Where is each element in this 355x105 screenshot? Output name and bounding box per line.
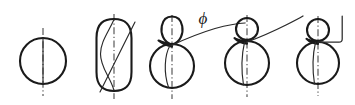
stage-3-chord [165, 46, 170, 88]
stage-1-group [20, 28, 66, 96]
stage-4-leader-line [247, 16, 304, 42]
stage-5-group [297, 16, 342, 96]
stage-2-s-curve [101, 20, 115, 91]
stage-2-group [97, 14, 136, 99]
stage-3-group: ϕ [150, 9, 245, 99]
phi-angle-label: ϕ [199, 9, 208, 28]
stage-4-group [225, 15, 303, 97]
technical-figure-container: ϕ [0, 0, 355, 105]
technical-line-drawing: ϕ [0, 0, 355, 105]
stage-4-chord [242, 42, 244, 85]
stage-5-chord [313, 43, 315, 85]
